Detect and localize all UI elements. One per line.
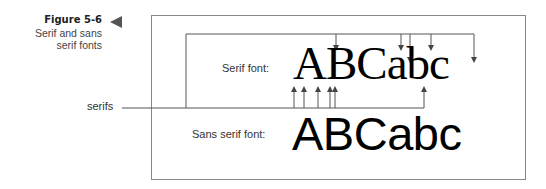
serifs-label: serifs: [87, 100, 113, 112]
serif-font-sample: ABCabc: [293, 37, 449, 89]
serif-font-label: Serif font:: [222, 62, 269, 74]
sans-serif-font-sample: ABCabc: [292, 108, 461, 160]
serif-callout-lines: [0, 0, 546, 189]
sans-serif-font-label: Sans serif font:: [192, 128, 265, 140]
